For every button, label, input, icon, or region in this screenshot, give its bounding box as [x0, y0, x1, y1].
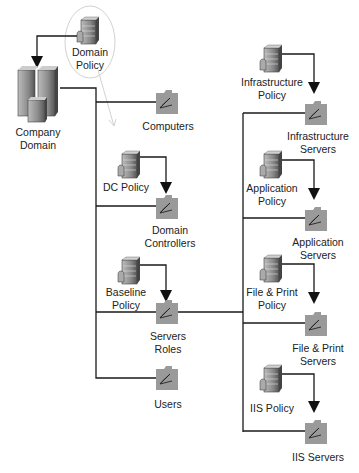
server-cluster-icon	[18, 66, 58, 122]
ou-users-label: Users	[154, 398, 181, 411]
baseline-policy-label: Baseline Policy	[106, 286, 146, 311]
ou-folder-icon	[305, 312, 327, 336]
ou-file-print-servers-label: File & Print Servers	[292, 342, 343, 367]
gpo-diagram: Company Domain Domain Policy Computers D…	[0, 0, 359, 473]
ou-folder-icon	[156, 366, 178, 390]
policy-server-icon	[260, 255, 282, 282]
ou-folder-icon	[156, 90, 178, 114]
ou-folder-icon	[305, 207, 327, 231]
ou-application-servers-label: Application Servers	[292, 236, 343, 261]
ou-infrastructure-servers-label: Infrastructure Servers	[287, 130, 349, 155]
iis-policy-label: IIS Policy	[250, 402, 294, 415]
policy-server-icon	[260, 151, 282, 178]
company-domain-label: Company Domain	[16, 126, 61, 151]
policy-server-icon	[118, 257, 140, 284]
domain-policy-label: Domain Policy	[72, 46, 108, 71]
file-print-policy-label: File & Print Policy	[246, 286, 297, 311]
ou-servers-roles-label: Servers Roles	[150, 330, 186, 355]
ou-folder-icon	[305, 101, 327, 125]
ou-folder-icon	[305, 420, 327, 444]
policy-server-icon	[260, 365, 282, 392]
ou-domain-controllers-label: Domain Controllers	[145, 224, 196, 249]
policy-server-icon	[260, 45, 282, 72]
ou-folder-icon	[156, 300, 178, 324]
ou-computers-label: Computers	[142, 120, 193, 133]
policy-server-icon	[77, 17, 99, 44]
ou-folder-icon	[156, 195, 178, 219]
policy-server-icon	[118, 151, 140, 178]
ou-iis-servers-label: IIS Servers	[292, 451, 344, 464]
infrastructure-policy-label: Infrastructure Policy	[241, 76, 303, 101]
application-policy-label: Application Policy	[246, 182, 297, 207]
dc-policy-label: DC Policy	[103, 181, 149, 194]
